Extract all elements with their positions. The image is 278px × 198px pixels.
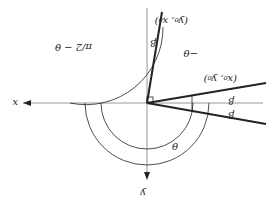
angle-label-beta-lower: β (228, 110, 235, 121)
angle-label-beta-rotated: β (150, 38, 157, 49)
angle-label-beta-upper: β (228, 96, 235, 107)
x-axis-label: x (12, 98, 18, 109)
x-axis-arrow-icon (23, 100, 31, 106)
y-axis-label: y (140, 188, 147, 198)
point-label-p1: (x₀, y₀) (203, 74, 237, 85)
angle-label-theta: θ (172, 141, 178, 152)
ray-beta-upper (147, 83, 266, 103)
point-label-p2: (y₀, x₀) (154, 16, 188, 27)
y-axis-arrow-icon (144, 172, 150, 180)
angle-label-minus-theta: −θ (184, 48, 198, 59)
angle-label-pi2-minus-theta: π/2 − θ (55, 42, 93, 53)
diagram: x y (y₀, x₀) (x₀, y₀) θ −θ β β β π/2 − θ (0, 0, 278, 198)
